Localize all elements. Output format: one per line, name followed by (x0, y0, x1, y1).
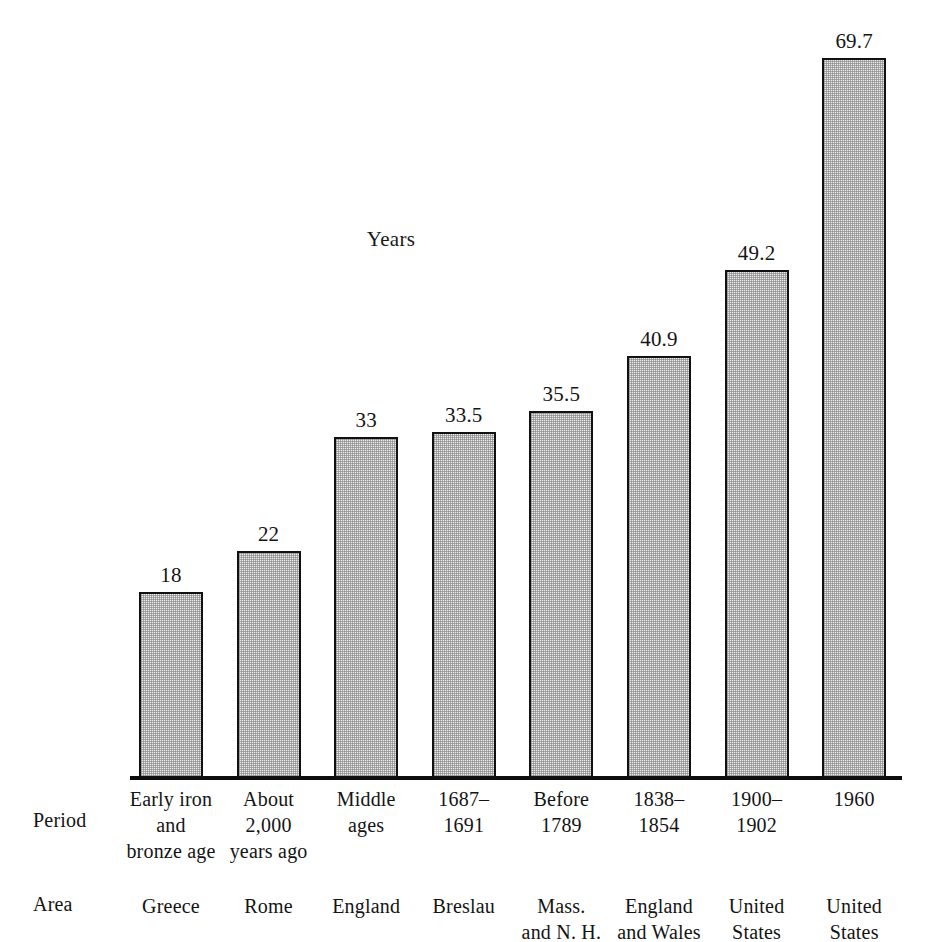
area-row-label: Area (33, 893, 73, 916)
bar-7[interactable] (822, 58, 886, 778)
bar-value-4: 35.5 (501, 382, 621, 407)
area-cell-7: UnitedStates (779, 893, 929, 942)
bar-chart: Years 18 22 33 33.5 35.5 40.9 49.2 69.7 … (0, 0, 946, 942)
plot-area: 18 22 33 33.5 35.5 40.9 49.2 69.7 (0, 0, 946, 782)
bar-value-6: 49.2 (697, 241, 817, 266)
cell-line: years ago (194, 838, 344, 864)
bar-0[interactable] (139, 592, 203, 778)
bar-value-7: 69.7 (794, 29, 914, 54)
bar-6[interactable] (725, 270, 789, 778)
period-cell-7: 1960 (779, 786, 929, 812)
cell-line: 1960 (779, 786, 929, 812)
period-row-label: Period (33, 809, 86, 832)
bar-value-1: 22 (209, 522, 329, 547)
bar-1[interactable] (237, 551, 301, 778)
cell-line: United (779, 893, 929, 919)
cell-line: 1902 (682, 812, 832, 838)
bar-value-0: 18 (111, 563, 231, 588)
bar-5[interactable] (627, 356, 691, 778)
bar-value-5: 40.9 (599, 327, 719, 352)
bar-2[interactable] (334, 437, 398, 778)
cell-line: States (779, 919, 929, 942)
bar-3[interactable] (432, 432, 496, 778)
bar-4[interactable] (529, 411, 593, 778)
